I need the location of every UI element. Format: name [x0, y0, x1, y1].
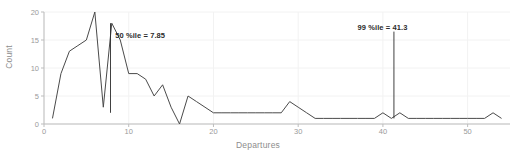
y-axis-label-wrap: Count [2, 0, 16, 124]
grid-lines [44, 12, 510, 124]
x-axis-label: Departures [0, 140, 516, 150]
y-axis-label: Count [4, 34, 14, 80]
chart-container: Count Departures 01020304050 05101520 50… [0, 0, 516, 164]
x-tick-label-40: 40 [379, 127, 387, 136]
x-tick-label-0: 0 [42, 127, 46, 136]
y-tick-label-15: 15 [25, 36, 39, 45]
x-tick-label-50: 50 [463, 127, 471, 136]
x-tick-label-20: 20 [209, 127, 217, 136]
y-tick-label-0: 0 [25, 120, 39, 129]
x-tick-label-10: 10 [125, 127, 133, 136]
y-tick-label-20: 20 [25, 8, 39, 17]
y-tick-label-10: 10 [25, 64, 39, 73]
annotation-label-p50: 50 %ile = 7.85 [115, 31, 165, 40]
y-tick-label-5: 5 [25, 92, 39, 101]
annotation-label-p99: 99 %ile = 41.3 [357, 23, 407, 32]
x-tick-label-30: 30 [294, 127, 302, 136]
